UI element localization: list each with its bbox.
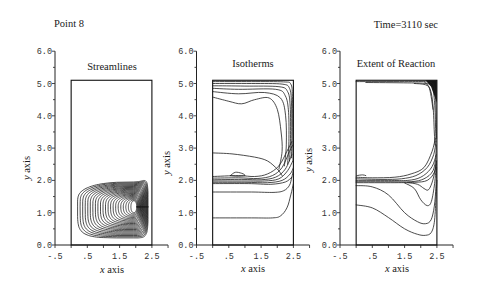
x-tick-label: 2.5 bbox=[429, 252, 444, 262]
contour-line bbox=[213, 97, 283, 169]
domain-boundary bbox=[356, 80, 437, 245]
y-tick-label: 0.0 bbox=[322, 241, 337, 251]
contour-line bbox=[356, 82, 437, 139]
y-tick-label: 2.0 bbox=[37, 176, 52, 186]
y-tick-label: 5.0 bbox=[37, 80, 52, 90]
x-axis-label: x axis bbox=[240, 263, 265, 274]
contour-lines bbox=[356, 80, 437, 235]
y-tick-label: 1.0 bbox=[322, 209, 337, 219]
x-axis-word: axis bbox=[246, 263, 266, 274]
y-tick-label: 3.0 bbox=[178, 144, 193, 154]
y-tick-label: 1.0 bbox=[178, 209, 193, 219]
streamline bbox=[131, 201, 137, 213]
contour-line bbox=[356, 138, 435, 177]
contour-lines bbox=[78, 181, 148, 238]
contour-line bbox=[357, 175, 366, 176]
streamlines-panel: Streamlines x axis y axis 0.01.02.03.04.… bbox=[21, 47, 168, 275]
y-axis-label: y axis bbox=[161, 151, 172, 176]
y-tick-label: 5.0 bbox=[178, 80, 193, 90]
contour-lines bbox=[213, 82, 294, 218]
extent-of-reaction-panel: Extent of Reaction x axis y axis 0.01.02… bbox=[303, 47, 453, 274]
contour-line bbox=[366, 83, 436, 142]
point-label: Point 8 bbox=[54, 18, 84, 29]
x-tick-label: 2.5 bbox=[286, 252, 301, 262]
contour-line bbox=[213, 184, 294, 218]
x-tick-label: 1.5 bbox=[112, 252, 127, 262]
contour-line bbox=[356, 145, 436, 181]
y-tick-label: 6.0 bbox=[322, 47, 337, 57]
contour-line bbox=[356, 142, 436, 180]
y-axis-word: axis bbox=[161, 151, 172, 171]
x-axis-word: axis bbox=[105, 264, 125, 275]
y-tick-label: 0.0 bbox=[178, 241, 193, 251]
y-tick-label: 4.0 bbox=[37, 112, 52, 122]
x-axis-word: axis bbox=[390, 263, 410, 274]
x-tick-label: .5 bbox=[224, 252, 234, 262]
panel-title: Extent of Reaction bbox=[357, 58, 436, 69]
contour-line bbox=[213, 168, 294, 183]
contour-line bbox=[213, 92, 287, 166]
x-tick-label: 2.5 bbox=[144, 252, 159, 262]
x-tick-label: -.5 bbox=[47, 252, 62, 262]
x-tick-label: .5 bbox=[367, 252, 377, 262]
y-tick-label: 4.0 bbox=[322, 112, 337, 122]
y-tick-label: 6.0 bbox=[178, 47, 193, 57]
y-tick-label: 3.0 bbox=[37, 144, 52, 154]
isotherms-panel: Isotherms x axis y axis 0.01.02.03.04.05… bbox=[161, 47, 310, 274]
y-tick-label: 1.0 bbox=[37, 209, 52, 219]
time-label: Time=3110 sec bbox=[374, 19, 439, 30]
y-tick-label: 5.0 bbox=[322, 80, 337, 90]
x-tick-label: .5 bbox=[82, 252, 92, 262]
x-tick-label: -.5 bbox=[189, 252, 204, 262]
panel-title: Isotherms bbox=[232, 58, 273, 69]
y-tick-label: 6.0 bbox=[37, 47, 52, 57]
x-tick-label: -.5 bbox=[332, 252, 347, 262]
x-axis-label: x axis bbox=[384, 263, 409, 274]
y-tick-label: 0.0 bbox=[37, 241, 52, 251]
panel-title: Streamlines bbox=[87, 61, 137, 72]
y-tick-label: 4.0 bbox=[178, 112, 193, 122]
y-axis-label: y axis bbox=[21, 156, 32, 181]
x-tick-label: 1.5 bbox=[397, 252, 412, 262]
contour-line bbox=[414, 84, 435, 145]
y-axis-word: axis bbox=[303, 148, 314, 168]
contour-line bbox=[213, 82, 293, 161]
x-tick-label: 1.5 bbox=[253, 252, 268, 262]
y-tick-label: 2.0 bbox=[322, 176, 337, 186]
y-tick-label: 3.0 bbox=[322, 144, 337, 154]
contour-line bbox=[213, 142, 292, 177]
y-axis-label: y axis bbox=[303, 148, 314, 173]
contour-line bbox=[356, 168, 437, 224]
contour-figure: Point 8 Time=3110 sec Streamlines x axis… bbox=[0, 0, 477, 290]
y-axis-word: axis bbox=[21, 156, 32, 176]
x-axis-label: x axis bbox=[99, 264, 124, 275]
y-tick-label: 2.0 bbox=[178, 176, 193, 186]
